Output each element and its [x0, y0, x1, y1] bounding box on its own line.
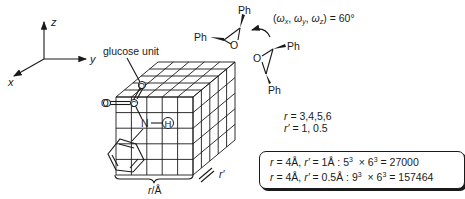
- result-row-1: r = 4Å, r′ = 1Å : 53 × 63 = 27000: [270, 156, 419, 168]
- ph-label-right: Ph: [287, 40, 300, 52]
- nitrogen-label: N: [141, 117, 149, 129]
- coordinate-axes: z y x: [7, 16, 97, 88]
- z-axis-label: z: [50, 16, 57, 28]
- dimension-r-prime-label: r′: [219, 168, 225, 180]
- oxygen-left-label: O: [101, 98, 109, 109]
- rotation-arrow: [252, 29, 270, 37]
- result-row-2: r = 4Å, r′ = 0.5Å : 93 × 63 = 157464: [270, 171, 433, 183]
- ph-label-top: Ph: [238, 4, 251, 16]
- r-values: r = 3,4,5,6: [284, 110, 332, 122]
- r-prime-values: r′ = 1, 0.5: [284, 122, 332, 134]
- y-axis-label: y: [89, 53, 97, 65]
- epoxide-bottom: O Ph Ph: [253, 40, 300, 96]
- x-axis-label: x: [7, 76, 14, 88]
- ph-label-left: Ph: [194, 31, 207, 43]
- epoxide-oxygen-top: O: [230, 39, 238, 51]
- dimension-r-label: r/Å: [148, 184, 161, 196]
- hydrogen-label: H: [165, 118, 172, 129]
- rotation-angle-label: (ωx, ωy, ωz) = 60°: [273, 12, 355, 24]
- glucose-pointer-line: [127, 58, 140, 82]
- results-box: r = 4Å, r′ = 1Å : 53 × 63 = 27000 r = 4Å…: [259, 151, 465, 189]
- glucose-unit-label: glucose unit: [103, 45, 159, 57]
- x-axis: [14, 59, 44, 76]
- cube-grid: [116, 62, 235, 175]
- epoxide-oxygen-bottom: O: [253, 52, 261, 64]
- parameter-list: r = 3,4,5,6 r′ = 1, 0.5: [284, 110, 332, 134]
- epoxide-top: Ph Ph O: [194, 4, 251, 51]
- oxygen-top-label: O: [138, 81, 145, 91]
- ph-label-bottom: Ph: [268, 84, 281, 96]
- dimension-bracket-r: [115, 175, 193, 183]
- dimension-bracket-r-prime: [199, 168, 212, 179]
